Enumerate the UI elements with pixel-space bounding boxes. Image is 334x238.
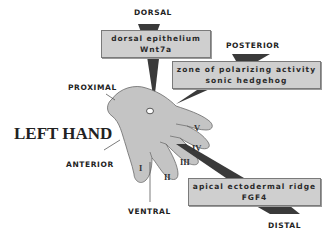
dorsal-epithelium-box: dorsal epithelium Wnt7a [101,30,211,58]
digit-label-2: II [164,172,171,182]
aer-box-line1: apical ectodermal ridge [189,181,320,192]
zpa-box-line2: sonic hedgehog [173,75,320,86]
axis-label-anterior: ANTERIOR [66,160,114,169]
axis-label-proximal: PROXIMAL [68,83,117,92]
distal-wedge [256,206,300,214]
axis-label-dorsal: DORSAL [134,8,172,17]
zpa-box: zone of polarizing activity sonic hedgeh… [172,61,321,89]
axis-label-posterior: POSTERIOR [226,41,280,50]
dorsal-box-line2: Wnt7a [102,44,210,55]
posterior-wedge-top [232,54,270,61]
origin-marker-icon [147,108,154,114]
left-hand-shape [108,86,213,182]
title-left-hand: LEFT HAND [14,124,112,144]
axis-label-distal: DISTAL [268,221,301,230]
dorsal-box-line1: dorsal epithelium [102,33,210,44]
digit-label-5: V [194,123,200,133]
axis-label-ventral: VENTRAL [128,207,171,216]
zpa-wedge-pointer [176,88,212,104]
aer-box-line2: FGF4 [189,192,320,203]
limb-patterning-diagram: DORSAL dorsal epithelium Wnt7a POSTERIOR… [0,0,334,238]
digit-label-3: III [180,157,190,167]
digit-label-1: I [139,163,142,173]
digit-label-4: IV [192,143,201,153]
zpa-box-line1: zone of polarizing activity [173,64,320,75]
aer-box: apical ectodermal ridge FGF4 [188,178,321,206]
